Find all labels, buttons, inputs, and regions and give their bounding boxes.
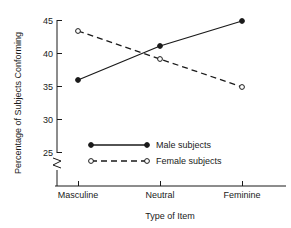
y-tick-label-30: 30 [43, 115, 53, 125]
x-axis-title: Type of Item [145, 211, 195, 221]
y-axis-break-icon [53, 158, 61, 168]
y-axis-title: Percentage of Subjects Conforming [13, 32, 23, 174]
data-point-male-neutral [158, 44, 163, 49]
legend-label-male-subjects: Male subjects [156, 140, 212, 150]
y-tick-label-25: 25 [43, 148, 53, 158]
y-tick-label-35: 35 [43, 82, 53, 92]
legend-swatch-male-marker-left [89, 143, 94, 148]
chart-plot-area: 45 40 35 30 25 Masculine Neutral Feminin… [0, 0, 291, 228]
legend-label-female-subjects: Female subjects [156, 156, 222, 166]
legend-entry-female-subjects: Female subjects [89, 156, 222, 166]
series-line-male-subjects [78, 21, 242, 80]
chart-figure: 45 40 35 30 25 Masculine Neutral Feminin… [0, 0, 291, 228]
x-tick-label-neutral: Neutral [145, 190, 174, 200]
x-tick-label-masculine: Masculine [58, 190, 99, 200]
legend-entry-male-subjects: Male subjects [89, 140, 212, 150]
data-point-female-feminine [240, 85, 245, 90]
y-tick-label-40: 40 [43, 49, 53, 59]
legend-swatch-male-marker-right [145, 143, 150, 148]
y-tick-label-45: 45 [43, 16, 53, 26]
legend-swatch-female-marker-left [89, 159, 94, 164]
data-point-male-feminine [240, 19, 245, 24]
data-point-male-masculine [76, 78, 81, 83]
data-point-female-masculine [76, 29, 81, 34]
data-point-female-neutral [158, 57, 163, 62]
x-tick-label-feminine: Feminine [223, 190, 260, 200]
legend-swatch-female-marker-right [145, 159, 150, 164]
